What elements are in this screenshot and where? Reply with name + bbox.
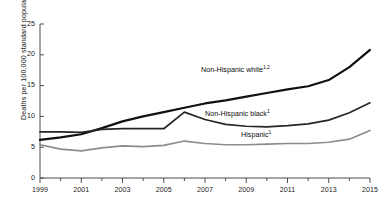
series-line-hispanic <box>40 131 370 151</box>
y-axis-tick-label: 5 <box>13 143 35 151</box>
x-axis-tick-label: 2001 <box>66 186 96 194</box>
x-axis-tick-label: 1999 <box>25 186 55 194</box>
y-axis-tick-label: 10 <box>13 112 35 120</box>
x-axis-tick-label: 2007 <box>190 186 220 194</box>
series-line-non-hispanic-white <box>40 50 370 140</box>
series-annotation-hispanic: Hispanic1 <box>241 130 271 139</box>
x-axis-tick-label: 2013 <box>314 186 344 194</box>
y-axis-tick-label: 15 <box>13 81 35 89</box>
y-axis-tick-label: 0 <box>13 174 35 182</box>
y-axis-tick-label: 20 <box>13 50 35 58</box>
series-annotation-non-hispanic-white: Non-Hispanic white1,2 <box>201 65 270 74</box>
chart-container: Deaths per 100,000 standard population 0… <box>0 0 380 207</box>
x-axis-tick-label: 2003 <box>108 186 138 194</box>
chart-plot-area <box>0 0 380 207</box>
x-axis-tick-label: 2015 <box>355 186 380 194</box>
y-axis-tick-label: 25 <box>13 20 35 28</box>
x-axis-tick-label: 2005 <box>149 186 179 194</box>
series-annotation-non-hispanic-black: Non-Hispanic black1 <box>205 109 270 118</box>
x-axis-tick-label: 2011 <box>273 186 303 194</box>
x-axis-tick-label: 2009 <box>231 186 261 194</box>
